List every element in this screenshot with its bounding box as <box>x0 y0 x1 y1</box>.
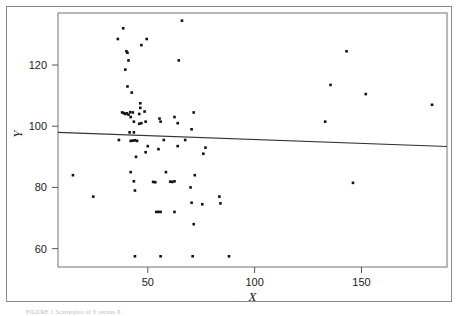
data-point <box>145 38 148 41</box>
data-point <box>159 255 162 258</box>
data-point <box>173 211 176 214</box>
plot-svg: 608010012050100150XY <box>0 0 460 316</box>
data-point <box>72 174 75 177</box>
data-point <box>192 223 195 226</box>
data-point <box>219 202 222 205</box>
y-tick-label: 120 <box>29 59 47 71</box>
data-point <box>140 44 143 47</box>
data-point <box>136 140 139 143</box>
data-point <box>190 128 193 131</box>
data-point <box>92 195 95 198</box>
data-point <box>146 145 149 148</box>
figure-root: 608010012050100150XY FIGURE 1 Scatterplo… <box>0 0 460 316</box>
data-point <box>144 151 147 154</box>
data-point <box>173 116 176 119</box>
data-point <box>181 19 184 22</box>
x-tick-label: 100 <box>245 276 263 288</box>
data-point <box>204 146 207 149</box>
data-point <box>134 189 137 192</box>
data-point <box>129 111 132 114</box>
data-point <box>118 139 121 142</box>
data-point <box>176 122 179 125</box>
data-point <box>192 111 195 114</box>
data-point <box>218 195 221 198</box>
scatter-plot: 608010012050100150XY <box>0 0 460 316</box>
data-point <box>135 156 138 159</box>
y-axis-title: Y <box>10 129 25 138</box>
data-point <box>158 117 161 120</box>
data-point <box>129 116 132 119</box>
data-point <box>184 139 187 142</box>
data-point <box>189 186 192 189</box>
data-point <box>324 120 327 123</box>
data-point <box>128 131 131 134</box>
figure-caption: FIGURE 1 Scatterplot of Y versus X <box>26 308 446 316</box>
data-point <box>132 111 135 114</box>
y-tick-label: 60 <box>35 243 47 255</box>
data-point <box>134 255 137 258</box>
data-point <box>127 113 130 116</box>
x-tick-label: 50 <box>142 276 154 288</box>
data-point <box>352 182 355 185</box>
data-point <box>193 174 196 177</box>
data-point <box>191 255 194 258</box>
data-point <box>129 171 132 174</box>
data-point <box>159 211 162 214</box>
data-point <box>165 171 168 174</box>
data-point <box>139 107 142 110</box>
data-point <box>122 27 125 30</box>
data-point <box>162 139 165 142</box>
data-point <box>126 51 129 54</box>
y-tick-label: 100 <box>29 120 47 132</box>
data-point <box>126 85 129 88</box>
data-point <box>345 50 348 53</box>
data-point <box>329 84 332 87</box>
data-point <box>117 38 120 41</box>
data-point <box>133 120 136 123</box>
data-point <box>138 113 141 116</box>
data-point <box>143 110 146 113</box>
data-point <box>159 120 162 123</box>
data-point <box>144 120 147 123</box>
data-point <box>140 122 143 125</box>
data-point <box>139 102 142 105</box>
plot-frame <box>58 13 447 267</box>
data-point <box>154 181 157 184</box>
data-point <box>364 93 367 96</box>
data-point <box>130 91 133 94</box>
x-tick-label: 150 <box>352 276 370 288</box>
y-tick-label: 80 <box>35 181 47 193</box>
data-point <box>177 59 180 62</box>
data-point <box>431 104 434 107</box>
data-point <box>190 201 193 204</box>
data-point <box>173 180 176 183</box>
data-point <box>124 68 127 71</box>
data-point <box>202 152 205 155</box>
data-point <box>133 131 136 134</box>
x-axis-title: X <box>248 289 258 304</box>
data-point <box>176 145 179 148</box>
data-point <box>228 255 231 258</box>
data-point <box>127 59 130 62</box>
data-point <box>133 180 136 183</box>
plot-panel <box>58 13 447 267</box>
data-point <box>201 203 204 206</box>
data-point <box>157 148 160 151</box>
